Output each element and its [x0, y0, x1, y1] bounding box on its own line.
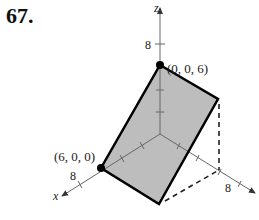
point-0-0-6	[156, 61, 164, 69]
point-label-z: (0, 0, 6)	[167, 61, 208, 76]
x-tick-label: 8	[70, 169, 76, 183]
y-tick-label: 8	[225, 181, 231, 195]
x-axis-label: x	[52, 189, 59, 203]
z-tick-label: 8	[145, 38, 151, 52]
plane-diagram: z 8 (0, 0, 6) (6, 0, 0) 8 x 8	[0, 0, 259, 220]
z-axis-label: z	[153, 1, 159, 15]
point-6-0-0	[97, 164, 105, 172]
point-label-x: (6, 0, 0)	[54, 149, 95, 164]
